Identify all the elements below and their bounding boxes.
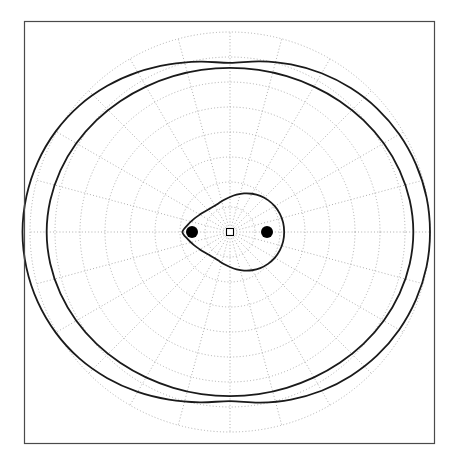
polar-plot-canvas xyxy=(0,0,460,460)
origin-square-marker xyxy=(227,229,234,236)
focus-marker-focus-right xyxy=(261,226,273,238)
polar-plot-figure xyxy=(0,0,460,460)
focus-marker-focus-left xyxy=(186,226,198,238)
